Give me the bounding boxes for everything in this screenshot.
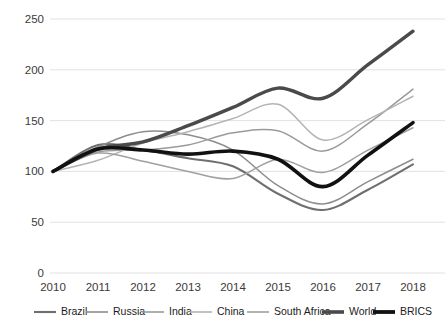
y-axis-tick-label: 250 xyxy=(25,13,44,25)
y-axis-tick-label: 50 xyxy=(31,216,44,228)
x-axis-tick-label: 2016 xyxy=(310,281,336,293)
y-axis-tick-label: 100 xyxy=(25,165,44,177)
x-axis-tick-label: 2013 xyxy=(175,281,201,293)
legend-label-brazil: Brazil xyxy=(61,305,87,317)
x-axis-tick-label: 2011 xyxy=(86,281,111,293)
series-line-india xyxy=(53,89,413,171)
x-axis-tick-label: 2010 xyxy=(40,281,66,293)
line-chart: 050100150200250 201020112012201320142015… xyxy=(0,0,447,326)
legend-label-world: World xyxy=(349,305,376,317)
y-axis-tick-label: 150 xyxy=(25,115,44,127)
x-axis-tick-label: 2012 xyxy=(130,281,156,293)
x-axis-tick-labels: 201020112012201320142015201620172018 xyxy=(40,281,426,293)
x-axis-tick-label: 2017 xyxy=(355,281,381,293)
legend-label-russia: Russia xyxy=(113,305,145,317)
x-axis-tick-label: 2015 xyxy=(265,281,291,293)
y-axis-tick-label: 0 xyxy=(38,267,44,279)
x-axis-tick-label: 2014 xyxy=(220,281,246,293)
y-axis-tick-labels: 050100150200250 xyxy=(25,13,44,279)
legend-label-china: China xyxy=(217,305,245,317)
legend-label-brics: BRICS xyxy=(400,305,432,317)
x-axis-tick-label: 2018 xyxy=(400,281,426,293)
y-axis-tick-label: 200 xyxy=(25,64,44,76)
chart-canvas: 050100150200250 201020112012201320142015… xyxy=(0,0,447,326)
chart-legend: BrazilRussiaIndiaChinaSouth AfricaWorldB… xyxy=(34,305,432,317)
legend-label-india: India xyxy=(169,305,192,317)
